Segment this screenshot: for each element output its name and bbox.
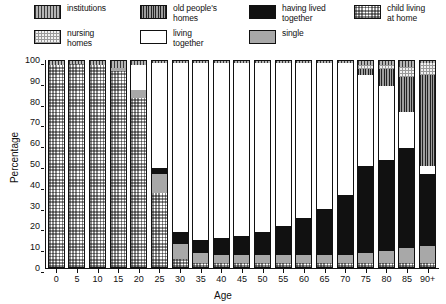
legend-swatch-institutions-icon xyxy=(34,5,61,19)
bar-segment xyxy=(49,65,64,267)
bar-column[interactable] xyxy=(129,60,150,268)
stacked-bar[interactable] xyxy=(254,60,271,268)
bar-column[interactable] xyxy=(190,60,211,268)
bar-column[interactable] xyxy=(314,60,335,268)
stacked-bar[interactable] xyxy=(316,60,333,268)
stacked-bar[interactable] xyxy=(295,60,312,268)
bar-segment xyxy=(317,209,332,254)
stacked-bar[interactable] xyxy=(151,60,168,268)
stacked-bar[interactable] xyxy=(275,60,292,268)
x-tick-mark xyxy=(221,269,222,273)
bar-column[interactable] xyxy=(417,60,438,268)
bar-segment xyxy=(358,253,373,263)
bar-column[interactable] xyxy=(170,60,191,268)
stacked-bar[interactable] xyxy=(419,60,436,268)
bar-segment xyxy=(276,255,291,263)
y-tick-label: 10 xyxy=(18,243,40,252)
bar-column[interactable] xyxy=(355,60,376,268)
x-tick-mark xyxy=(366,269,367,273)
stacked-bar[interactable] xyxy=(357,60,374,268)
stacked-bar[interactable] xyxy=(337,60,354,268)
x-tick-mark xyxy=(56,269,57,273)
legend-swatch-having-lived-together-icon xyxy=(249,5,276,19)
legend-item-institutions: institutions xyxy=(34,4,106,19)
legend-item-child-living-at-home: child living at home xyxy=(354,4,425,23)
bar-column[interactable] xyxy=(149,60,170,268)
y-tick-mark xyxy=(41,189,44,190)
bar-column[interactable] xyxy=(273,60,294,268)
bar-column[interactable] xyxy=(335,60,356,268)
legend-label-child-living-at-home: child living at home xyxy=(387,4,425,23)
y-tick-mark xyxy=(41,106,44,107)
stacked-bar[interactable] xyxy=(68,60,85,268)
stacked-bar[interactable] xyxy=(89,60,106,268)
x-tick-mark xyxy=(428,269,429,273)
bar-column[interactable] xyxy=(46,60,67,268)
bar-segment xyxy=(173,244,188,258)
bar-segment xyxy=(358,166,373,253)
bar-column[interactable] xyxy=(294,60,315,268)
bar-segment xyxy=(214,255,229,263)
stacked-bar[interactable] xyxy=(192,60,209,268)
bar-column[interactable] xyxy=(252,60,273,268)
x-tick-mark xyxy=(159,269,160,273)
bar-column[interactable] xyxy=(211,60,232,268)
bar-segment xyxy=(379,69,394,85)
bar-segment xyxy=(399,248,414,262)
bar-segment xyxy=(214,263,229,267)
y-tick-label: 90 xyxy=(18,76,40,85)
bar-column[interactable] xyxy=(87,60,108,268)
bar-column[interactable] xyxy=(108,60,129,268)
stacked-bar[interactable] xyxy=(130,60,147,268)
x-tick-mark xyxy=(118,269,119,273)
x-tick-mark xyxy=(304,269,305,273)
x-tick-mark xyxy=(283,269,284,273)
bar-segment xyxy=(255,255,270,263)
y-tick-label: 60 xyxy=(18,139,40,148)
stacked-bar-chart: Percentage 0102030405060708090100 051015… xyxy=(0,56,446,304)
stacked-bar[interactable] xyxy=(110,60,127,268)
bar-segment xyxy=(399,77,414,112)
bar-column[interactable] xyxy=(67,60,88,268)
x-tick-mark xyxy=(98,269,99,273)
legend-swatch-nursing-homes-icon xyxy=(34,30,61,44)
y-tick-mark xyxy=(41,251,44,252)
x-tick-mark xyxy=(325,269,326,273)
bar-segment xyxy=(420,75,435,166)
bar-segment xyxy=(317,263,332,267)
y-tick-mark xyxy=(41,147,44,148)
bar-segment xyxy=(296,63,311,218)
y-tick-label: 100 xyxy=(18,56,40,65)
stacked-bar[interactable] xyxy=(233,60,250,268)
y-tick-label: 40 xyxy=(18,180,40,189)
bar-segment xyxy=(173,259,188,267)
bar-segment xyxy=(399,67,414,77)
legend-swatch-living-together-icon xyxy=(140,30,167,44)
bar-segment xyxy=(214,63,229,238)
stacked-bar[interactable] xyxy=(378,60,395,268)
stacked-bar[interactable] xyxy=(398,60,415,268)
bar-segment xyxy=(234,263,249,267)
bar-column[interactable] xyxy=(397,60,418,268)
bar-group xyxy=(46,60,438,268)
bar-segment xyxy=(152,63,167,168)
stacked-bar[interactable] xyxy=(213,60,230,268)
x-tick-mark xyxy=(407,269,408,273)
legend-label-old-peoples-homes: old people's homes xyxy=(173,4,217,23)
bar-column[interactable] xyxy=(232,60,253,268)
bar-segment xyxy=(111,61,126,68)
x-tick-mark xyxy=(201,269,202,273)
y-tick-label: 50 xyxy=(18,160,40,169)
bar-column[interactable] xyxy=(376,60,397,268)
y-tick-label: 20 xyxy=(18,222,40,231)
stacked-bar[interactable] xyxy=(48,60,65,268)
bar-segment xyxy=(379,86,394,160)
y-tick-label: 80 xyxy=(18,97,40,106)
y-tick-label: 30 xyxy=(18,201,40,210)
bar-segment xyxy=(358,75,373,166)
stacked-bar[interactable] xyxy=(172,60,189,268)
bar-segment xyxy=(234,236,249,255)
legend-item-having-lived-together: having lived together xyxy=(249,4,326,23)
bar-segment xyxy=(420,63,435,75)
bar-segment xyxy=(193,240,208,252)
